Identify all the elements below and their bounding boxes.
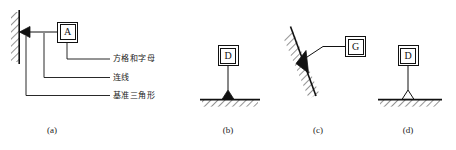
datum-frame-box-c[interactable]: G <box>345 36 366 57</box>
callout-bracket-datum-triangle <box>26 36 110 96</box>
surface-hatching <box>380 100 440 107</box>
datum-triangle-hollow <box>402 90 414 99</box>
panel-b: D (b) <box>190 0 275 150</box>
callout-label-connecting-line: 连线 <box>113 74 130 82</box>
datum-letter-a: A <box>60 24 76 40</box>
datum-frame-box-a[interactable]: A <box>57 22 78 43</box>
callout-bracket-box-and-letter <box>67 43 110 60</box>
panel-c: G (c) <box>275 0 370 150</box>
callout-label-box-and-letter: 方格和字母 <box>113 55 155 63</box>
caption-d: (d) <box>388 126 428 135</box>
figure-root: A 方格和字母 连线 基准三角形 (a) D <box>0 0 456 150</box>
caption-a: (a) <box>32 126 72 135</box>
datum-triangle-solid <box>20 27 31 38</box>
datum-frame-box-d[interactable]: D <box>398 45 419 66</box>
callout-label-datum-triangle: 基准三角形 <box>113 92 155 100</box>
datum-letter-d: D <box>400 48 416 64</box>
datum-letter-g: G <box>348 39 364 55</box>
datum-triangle-solid <box>222 90 234 99</box>
caption-b: (b) <box>208 126 248 135</box>
panel-a-drawing <box>0 0 190 150</box>
caption-c: (c) <box>298 126 338 135</box>
panel-d: D (d) <box>370 0 456 150</box>
wall-hatching <box>11 12 19 62</box>
connecting-leader-line <box>303 47 346 61</box>
datum-letter-d: D <box>220 48 236 64</box>
panel-a: A 方格和字母 连线 基准三角形 (a) <box>0 0 190 150</box>
surface-hatching <box>202 100 258 107</box>
datum-frame-box-b[interactable]: D <box>218 45 239 66</box>
